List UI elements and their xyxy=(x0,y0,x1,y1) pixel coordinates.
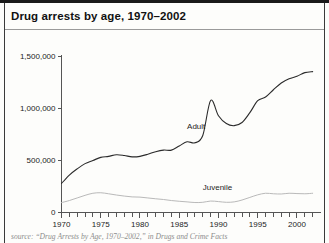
axis-group xyxy=(62,55,321,213)
series-label-juvenile: Juvenile xyxy=(203,183,232,192)
x-axis-tick-label: 1975 xyxy=(83,220,119,229)
data-series-group xyxy=(62,72,313,203)
y-axis-tick-label: 500,000 xyxy=(4,156,56,165)
series-label-adult: Adult xyxy=(187,122,205,131)
series-line-juvenile xyxy=(62,193,313,203)
x-axis-tick-label: 2000 xyxy=(279,220,315,229)
source-note: source: “Drug Arrests by Age, 1970–2002,… xyxy=(11,232,321,241)
y-axis-tick-label: 1,000,000 xyxy=(4,104,56,113)
x-axis-tick-label: 1970 xyxy=(44,220,80,229)
chart-page: Drug arrests by age, 1970–2002 0500,0001… xyxy=(0,0,329,243)
x-axis-tick-label: 1990 xyxy=(200,220,236,229)
y-axis-tick-label: 1,500,000 xyxy=(4,52,56,61)
y-axis-tick-label: 0 xyxy=(4,208,56,217)
x-axis-tick-label: 1980 xyxy=(122,220,158,229)
x-axis-tick-label: 1985 xyxy=(161,220,197,229)
plot-area: 0500,0001,000,0001,500,00019701975198019… xyxy=(0,0,329,243)
x-axis-tick-label: 1995 xyxy=(240,220,276,229)
